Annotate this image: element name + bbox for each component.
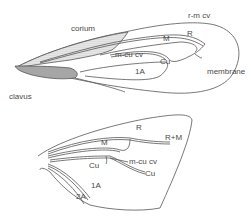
label-hindwing-rm: R+M xyxy=(165,134,182,142)
label-hindwing-r: R xyxy=(136,124,142,132)
label-corium: corium xyxy=(71,25,95,33)
label-hindwing-cu-inner: Cu xyxy=(89,162,99,170)
wing-diagram xyxy=(0,0,251,220)
label-hindwing-cu-outer: Cu xyxy=(145,170,155,178)
label-forewing-mcu-cv: m-cu cv xyxy=(115,51,143,59)
clavus-region xyxy=(15,66,77,79)
label-hindwing-1a: 1A xyxy=(91,182,101,190)
hindwing-outline xyxy=(38,115,192,210)
label-forewing-1a: 1A xyxy=(135,68,145,76)
label-forewing-m: M xyxy=(163,35,170,43)
label-hindwing-m: M xyxy=(101,139,108,147)
label-membrane: membrane xyxy=(207,68,245,76)
label-rm-cv: r-m cv xyxy=(188,12,210,20)
label-hindwing-2a: 2A xyxy=(76,193,86,201)
label-clavus: clavus xyxy=(9,93,32,101)
corium-region xyxy=(17,32,128,67)
label-hindwing-mcu-cv: m-cu cv xyxy=(129,158,157,166)
label-forewing-r: R xyxy=(187,30,193,38)
hindwing xyxy=(38,115,192,210)
label-forewing-cu: Cu xyxy=(160,58,170,66)
